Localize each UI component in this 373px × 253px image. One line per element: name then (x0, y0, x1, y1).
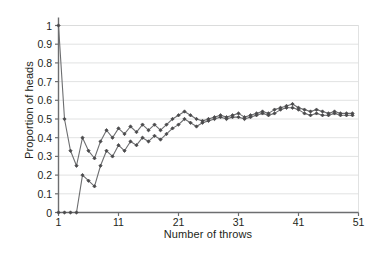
series-line (59, 26, 353, 166)
data-point-marker (321, 114, 324, 117)
x-tick-label: 11 (107, 217, 131, 227)
y-axis-title: Proportion of heads (23, 35, 35, 185)
data-point-marker (321, 110, 324, 113)
data-point-marker (315, 112, 318, 115)
data-point-marker (69, 149, 72, 152)
data-point-marker (99, 164, 102, 167)
data-point-marker (75, 164, 78, 167)
data-point-marker (291, 106, 294, 109)
data-point-marker (303, 108, 306, 111)
x-tick-label: 21 (167, 217, 191, 227)
data-point-marker (315, 108, 318, 111)
data-point-marker (309, 114, 312, 117)
x-axis-title: Number of throws (58, 228, 358, 240)
y-tick-label: 0.1 (26, 189, 52, 199)
data-point-marker (309, 110, 312, 113)
axis-lines (59, 18, 359, 213)
x-tick-label: 51 (347, 217, 371, 227)
x-tick-label: 41 (287, 217, 311, 227)
data-point-marker (57, 211, 60, 214)
data-point-marker (57, 24, 60, 27)
series-line (59, 108, 353, 213)
data-point-marker (69, 211, 72, 214)
x-tick-label: 1 (47, 217, 71, 227)
data-point-marker (237, 115, 240, 118)
data-point-marker (81, 136, 84, 139)
x-tick-label: 31 (227, 217, 251, 227)
data-point-marker (75, 211, 78, 214)
data-point-marker (63, 117, 66, 120)
data-point-marker (63, 211, 66, 214)
y-tick-label: 1 (26, 21, 52, 31)
